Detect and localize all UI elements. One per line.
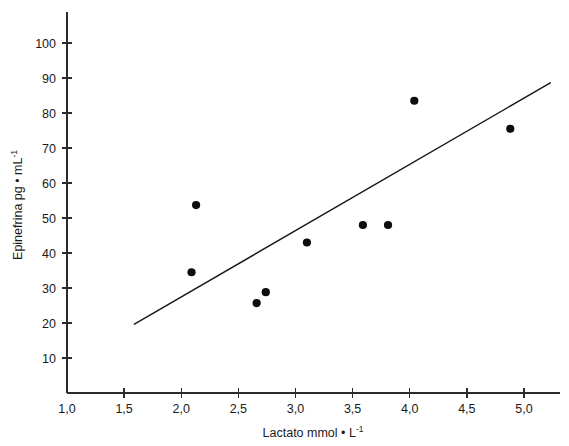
y-tick-label: 30 <box>42 282 56 296</box>
y-axis-title: Epinefrina pg • mL-1 <box>9 150 25 260</box>
x-tick-label: 5,0 <box>515 402 532 416</box>
x-axis-ticks: 1,01,52,02,53,03,54,04,55,0 <box>58 388 532 416</box>
y-axis-title-exponent: -1 <box>9 150 19 158</box>
x-axis-title-exponent: -1 <box>356 424 364 434</box>
y-tick-label: 50 <box>42 212 56 226</box>
y-tick-label: 60 <box>42 177 56 191</box>
y-tick-label: 10 <box>42 352 56 366</box>
data-point <box>192 201 200 209</box>
x-tick-label: 2,5 <box>230 402 247 416</box>
data-point <box>384 221 392 229</box>
y-tick-label: 90 <box>42 72 56 86</box>
y-tick-label: 80 <box>42 107 56 121</box>
x-tick-label: 3,5 <box>344 402 361 416</box>
data-point <box>506 125 514 133</box>
x-tick-label: 3,0 <box>287 402 304 416</box>
x-axis-title-base: Lactato mmol • L <box>263 426 356 440</box>
x-tick-label: 1,5 <box>115 402 132 416</box>
plot-area: 102030405060708090100 1,01,52,02,53,03,5… <box>0 0 569 446</box>
y-tick-label: 20 <box>42 317 56 331</box>
data-point <box>410 97 418 105</box>
x-tick-label: 1,0 <box>58 402 75 416</box>
data-point <box>187 268 195 276</box>
data-point <box>303 238 311 246</box>
data-point <box>359 221 367 229</box>
x-tick-label: 4,0 <box>401 402 418 416</box>
scatter-chart: 102030405060708090100 1,01,52,02,53,03,5… <box>0 0 569 446</box>
y-axis-title-base: Epinefrina pg • mL <box>11 158 25 260</box>
data-point <box>262 288 270 296</box>
y-tick-label: 40 <box>42 247 56 261</box>
x-tick-label: 2,0 <box>173 402 190 416</box>
y-tick-label: 100 <box>35 37 56 51</box>
x-axis-title: Lactato mmol • L-1 <box>263 424 364 440</box>
data-points-group <box>187 97 514 308</box>
y-tick-label: 70 <box>42 142 56 156</box>
data-point <box>253 299 261 307</box>
x-tick-label: 4,5 <box>458 402 475 416</box>
